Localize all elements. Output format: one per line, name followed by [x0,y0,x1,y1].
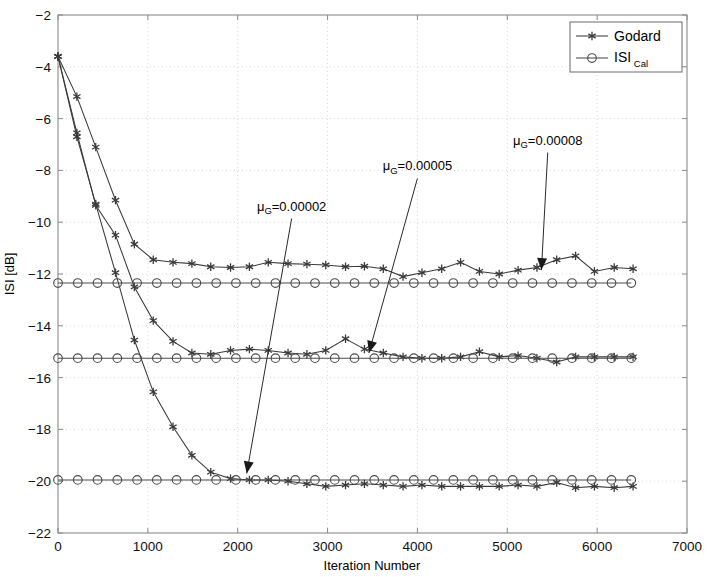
series-asterisk [54,52,636,281]
legend-box: GodardISI Cal [570,22,682,72]
y-tick-label: −16 [28,371,51,386]
series-circle [54,279,636,288]
plot-frame [58,15,687,533]
series-circle [54,354,636,363]
series-asterisk [54,52,636,492]
x-axis-label: Iteration Number [324,558,421,573]
y-tick-label: −6 [36,112,51,127]
y-tick-label: −4 [36,60,52,75]
x-tick-label: 1000 [133,539,163,554]
mu-annotation-label: μG=0.00008 [513,133,582,151]
isi-convergence-chart: 01000200030004000500060007000−2−4−6−8−10… [0,0,712,577]
y-tick-label: −12 [28,267,51,282]
y-tick-label: −2 [36,8,51,23]
x-tick-label: 6000 [582,539,612,554]
series-circle [54,476,636,485]
mu-annotation-label: μG=0.00002 [257,199,326,217]
x-tick-label: 0 [54,539,62,554]
y-tick-label: −8 [36,163,51,178]
data-series [54,52,637,492]
x-tick-label: 2000 [223,539,253,554]
x-tick-label: 7000 [672,539,702,554]
annotations: μG=0.00002μG=0.00005μG=0.00008 [244,133,583,474]
x-tick-label: 5000 [492,539,522,554]
y-tick-label: −22 [28,526,51,541]
x-tick-label: 4000 [402,539,432,554]
mu-annotation-label: μG=0.00005 [383,158,452,176]
y-tick-label: −20 [28,474,51,489]
grid-lines [58,15,687,533]
chart-root: 01000200030004000500060007000−2−4−6−8−10… [0,0,712,577]
axis-ticks [58,15,687,533]
legend-label-godard: Godard [614,28,661,44]
x-tick-label: 3000 [313,539,343,554]
y-tick-label: −18 [28,422,51,437]
y-axis-label: ISI [dB] [2,253,17,296]
tick-labels: 01000200030004000500060007000−2−4−6−8−10… [28,8,702,554]
series-asterisk [54,52,636,366]
y-tick-label: −10 [28,215,51,230]
y-tick-label: −14 [28,319,51,334]
